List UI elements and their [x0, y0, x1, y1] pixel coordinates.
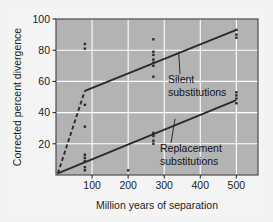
silent-annotation-line1: Silent — [168, 73, 194, 85]
silent-annotation-line2: substitutions — [168, 86, 226, 98]
data-point-replacement — [152, 143, 154, 145]
data-point-replacement — [84, 160, 86, 162]
y-tick-label: 40 — [38, 106, 50, 118]
data-point-silent — [152, 65, 154, 67]
data-point-silent — [152, 51, 154, 53]
x-axis-tick-labels: 100200300400500 — [83, 179, 245, 191]
data-point-replacement — [84, 166, 86, 168]
y-tick-label: 80 — [38, 44, 50, 56]
data-point-silent — [235, 33, 237, 35]
data-point-silent — [84, 104, 86, 106]
data-point-replacement — [235, 94, 237, 96]
data-point-replacement — [152, 139, 154, 141]
data-point-silent — [152, 54, 154, 56]
x-tick-label: 200 — [119, 179, 137, 191]
x-tick-label: 400 — [192, 179, 210, 191]
data-point-silent — [152, 76, 154, 78]
replacement-annotation-line2: substitutions — [160, 155, 218, 167]
x-tick-label: 500 — [228, 179, 246, 191]
y-tick-label: 100 — [32, 13, 50, 25]
scatter-chart: 100200300400500 20406080100 Million year… — [8, 6, 265, 216]
replacement-annotation-line1: Replacement — [160, 142, 222, 154]
data-point-silent — [84, 47, 86, 49]
data-point-replacement — [127, 169, 129, 171]
figure-inner: 100200300400500 20406080100 Million year… — [8, 6, 265, 216]
data-point-replacement — [235, 91, 237, 93]
y-tick-label: 60 — [38, 75, 50, 87]
data-point-silent — [152, 38, 154, 40]
y-tick-label: 20 — [38, 138, 50, 150]
data-point-silent — [152, 58, 154, 60]
x-tick-label: 100 — [83, 179, 101, 191]
data-point-silent — [84, 125, 86, 127]
data-point-replacement — [84, 154, 86, 156]
data-point-replacement — [235, 102, 237, 104]
x-axis-title: Million years of separation — [96, 199, 218, 211]
figure-container: 100200300400500 20406080100 Million year… — [0, 0, 273, 222]
plot-area-background — [56, 19, 258, 175]
data-point-replacement — [84, 157, 86, 159]
y-axis-tick-labels: 20406080100 — [32, 13, 50, 150]
data-point-replacement — [235, 97, 237, 99]
data-point-silent — [84, 43, 86, 45]
data-point-replacement — [84, 169, 86, 171]
data-point-replacement — [152, 132, 154, 134]
y-axis-title: Corrected percent divergence — [11, 28, 23, 166]
data-point-replacement — [152, 135, 154, 137]
x-tick-label: 300 — [155, 179, 173, 191]
data-point-silent — [235, 37, 237, 39]
data-point-silent — [152, 61, 154, 63]
data-point-silent — [235, 29, 237, 31]
